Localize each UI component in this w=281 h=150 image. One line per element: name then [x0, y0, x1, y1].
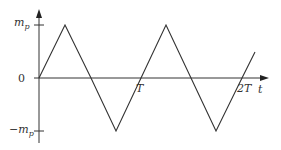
- waveform-diagram: mp 0 −mp T 2T t: [0, 0, 281, 150]
- tick-label-T: T: [136, 83, 143, 94]
- neg-mp-label: −mp: [9, 124, 34, 138]
- neg-mp-label-text: −m: [9, 123, 29, 136]
- plot-area: [0, 0, 281, 150]
- y-axis-arrow-icon: [36, 9, 42, 18]
- mp-label-sub: p: [24, 22, 29, 31]
- mp-label: mp: [14, 17, 30, 31]
- tick-label-2T: 2T: [237, 83, 251, 94]
- x-axis-arrow-icon: [260, 75, 269, 81]
- origin-label: 0: [18, 73, 25, 84]
- mp-label-text: m: [14, 16, 24, 29]
- neg-mp-label-sub: p: [29, 129, 34, 138]
- x-axis-label: t: [258, 84, 262, 95]
